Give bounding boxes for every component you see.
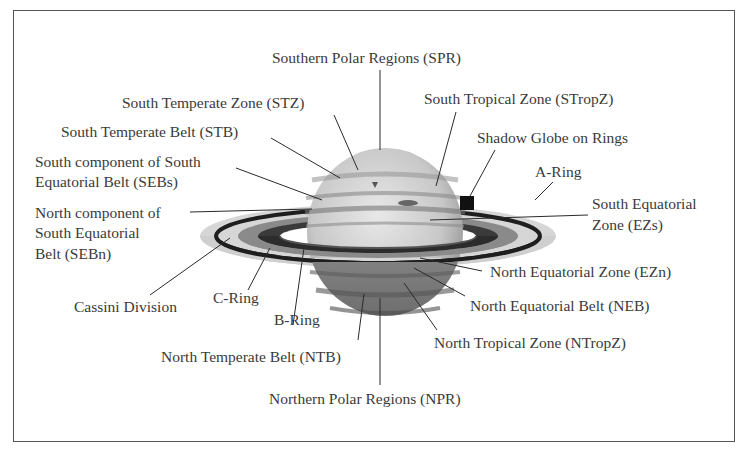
label-ntropz: North Tropical Zone (NTropZ) — [434, 333, 626, 352]
label-ezs-line1: South Equatorial — [592, 194, 697, 213]
label-stz: South Temperate Zone (STZ) — [122, 93, 304, 112]
label-cassini-division: Cassini Division — [74, 297, 177, 316]
label-ezs-line2: Zone (EZs) — [592, 215, 663, 234]
label-c-ring: C-Ring — [213, 288, 259, 307]
label-sebs-line1: South component of South — [35, 152, 201, 171]
label-a-ring: A-Ring — [535, 162, 582, 181]
label-shadow-globe: Shadow Globe on Rings — [477, 128, 628, 147]
label-ntb: North Temperate Belt (NTB) — [161, 347, 341, 366]
label-npr: Northern Polar Regions (NPR) — [269, 389, 461, 408]
label-stropz: South Tropical Zone (STropZ) — [424, 89, 613, 108]
label-stb: South Temperate Belt (STB) — [61, 122, 238, 141]
label-sebs-line2: Equatorial Belt (SEBs) — [35, 172, 178, 191]
label-b-ring: B-Ring — [274, 310, 320, 329]
globe-shadow-on-rings — [460, 196, 474, 210]
label-ezn: North Equatorial Zone (EZn) — [490, 262, 671, 281]
label-sebn-line1: North component of — [35, 203, 161, 222]
label-neb: North Equatorial Belt (NEB) — [470, 296, 650, 315]
label-sebn-line2: South Equatorial — [35, 223, 140, 242]
label-sebn-line3: Belt (SEBn) — [35, 244, 111, 263]
label-spr: Southern Polar Regions (SPR) — [272, 48, 461, 67]
